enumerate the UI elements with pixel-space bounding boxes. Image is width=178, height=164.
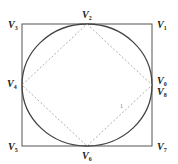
vertex-label-v2: V2	[82, 10, 92, 21]
vertex-label-v1: V1	[157, 20, 167, 31]
vertex-label-v6: V6	[82, 151, 92, 162]
vertex-label-v7: V7	[157, 142, 167, 153]
vertex-label-v5: V5	[8, 142, 18, 153]
diagram-canvas: V3 V2 V1 V4 V0 V8 V5 V6 V7 1	[0, 0, 178, 164]
vertex-label-v4: V4	[7, 79, 17, 90]
vertex-label-v3: V3	[8, 20, 18, 31]
geometry-figure	[0, 0, 178, 164]
vertex-label-v8: V8	[157, 87, 167, 98]
inscribed-circle	[22, 24, 152, 146]
segment-marker: 1	[120, 103, 123, 109]
